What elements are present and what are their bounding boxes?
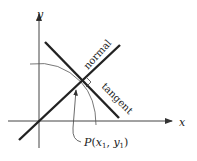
point-pointer — [73, 90, 81, 142]
y-axis-label: y — [36, 8, 44, 21]
tangent-normal-diagram: x y normal tangent P(x1, y1) — [0, 0, 197, 161]
x-axis-label: x — [179, 116, 186, 129]
tangent-label: tangent — [100, 81, 135, 116]
curve — [30, 63, 96, 125]
point-label: P(x1, y1) — [83, 136, 128, 150]
